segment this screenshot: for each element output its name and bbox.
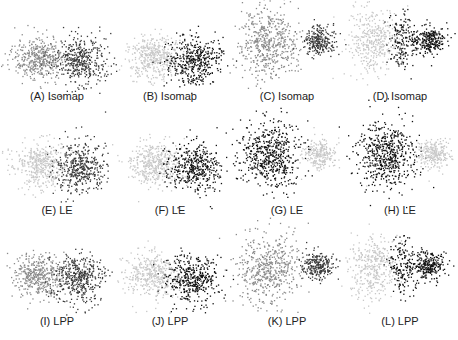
scatter-panel-l (343, 225, 458, 312)
panel-caption-g: (G) LE (271, 204, 303, 216)
scatter-panel-h (343, 114, 458, 201)
panel-caption-a: (A) Isomap (30, 90, 84, 102)
scatter-panel-k (228, 225, 343, 312)
scatter-plot (114, 134, 228, 199)
scatter-plot (343, 225, 458, 312)
scatter-panel-f (114, 134, 228, 199)
scatter-panel-j (114, 245, 228, 310)
panel-caption-f: (F) LE (155, 204, 186, 216)
scatter-panel-c (228, 0, 343, 87)
scatter-panel-e (0, 134, 114, 199)
scatter-plot (343, 0, 458, 87)
panel-caption-c: (C) Isomap (260, 90, 314, 102)
panel-caption-b: (B) Isomap (143, 90, 197, 102)
scatter-plot (228, 225, 343, 312)
scatter-plot (228, 0, 343, 87)
panel-caption-d: (D) Isomap (373, 90, 427, 102)
scatter-panel-d (343, 0, 458, 87)
scatter-panel-a (0, 22, 114, 87)
scatter-plot (343, 114, 458, 201)
scatter-plot (228, 114, 343, 201)
scatter-panel-b (114, 22, 228, 87)
scatter-plot (0, 134, 114, 199)
scatter-plot (114, 245, 228, 310)
panel-caption-l: (L) LPP (381, 315, 418, 327)
panel-caption-i: (I) LPP (40, 315, 74, 327)
panel-caption-j: (J) LPP (152, 315, 189, 327)
scatter-plot (0, 22, 114, 87)
scatter-plot (0, 245, 114, 310)
panel-caption-h: (H) LE (384, 204, 416, 216)
panel-caption-k: (K) LPP (268, 315, 307, 327)
scatter-panel-g (228, 114, 343, 201)
panel-caption-e: (E) LE (41, 204, 72, 216)
scatter-plot (114, 22, 228, 87)
scatter-panel-i (0, 245, 114, 310)
